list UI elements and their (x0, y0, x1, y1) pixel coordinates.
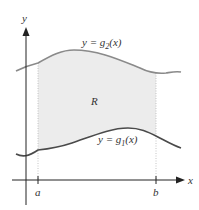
x-axis-label: x (187, 174, 193, 186)
curve-g2-label: y = g2(x) (81, 36, 122, 51)
tick-label-b: b (153, 186, 159, 198)
x-axis-arrow-icon (176, 177, 185, 184)
y-axis-arrow-icon (23, 27, 30, 36)
y-axis-label: y (21, 12, 27, 24)
curve-g1-label: y = g1(x) (97, 133, 138, 148)
region-between-curves-diagram: y x a b y = g2(x) R y = g1(x) (0, 0, 199, 210)
region-r-label: R (90, 95, 98, 107)
tick-label-a: a (35, 186, 41, 198)
